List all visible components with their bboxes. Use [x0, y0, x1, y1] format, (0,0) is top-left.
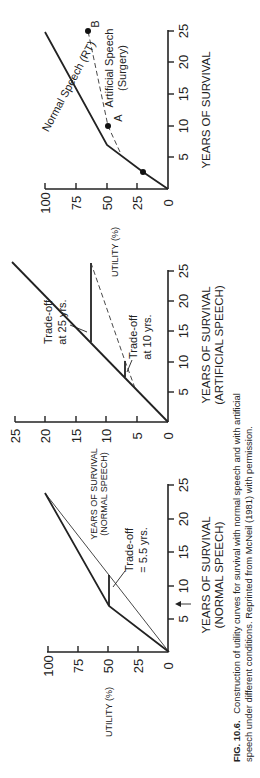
y-tick-label: 75 [69, 196, 84, 210]
arrow-up-icon [175, 601, 191, 607]
x-tick-label: 10 [176, 579, 191, 593]
data-point-b [85, 28, 91, 34]
x-tick-label: 5 [176, 615, 191, 622]
y-tick-label: 20 [38, 429, 53, 443]
tradeoff-pointer [113, 571, 125, 587]
x-tick-label: 15 [176, 324, 191, 338]
caption-line-1: Construction of utility curves for survi… [231, 393, 242, 713]
y-axis-title: YEARS OF SURVIVAL [89, 448, 99, 540]
data-point-a [105, 123, 111, 129]
y-tick-label: 0 [161, 199, 176, 206]
tradeoff-label-2: = 5.5 yrs. [137, 527, 149, 573]
y-tick-label: 100 [41, 655, 56, 677]
point-b-label: B [89, 20, 101, 27]
y-tick-label: 0 [161, 662, 176, 669]
x-tick-label: 20 [176, 55, 191, 69]
x-axis-title: YEARS OF SURVIVAL [200, 51, 212, 169]
y-axis-title: UTILITY (%) [110, 227, 120, 277]
artificial-speech-label: Artificial Speech [103, 29, 115, 108]
data-point [140, 169, 146, 175]
x-tick-label: 25 [176, 24, 191, 38]
svg-text:FIG. 10.6. Constructio: FIG. 10.6. Construction of utility curve… [231, 393, 242, 762]
x-tick-label: 5 [176, 388, 191, 395]
tradeoff-25-label: Trade-off [42, 299, 54, 344]
x-tick-label: 25 [176, 264, 191, 278]
y-tick-label: 50 [101, 659, 116, 673]
x-axis-title: YEARS OF SURVIVAL [200, 286, 212, 404]
y-tick-label: 10 [99, 429, 114, 443]
tradeoff-label: Trade-off [123, 527, 135, 572]
x-tick-label: 10 [176, 355, 191, 369]
tradeoff-10-label-2: at 10 yrs. [141, 314, 153, 359]
panel-utility-comparison: 5 10 15 20 25 0 25 50 75 100 YEARS OF SU… [38, 20, 212, 277]
normal-speech-label: Normal Speech (RT) [40, 39, 98, 134]
y-tick-label: 100 [38, 192, 53, 214]
x-tick-label: 15 [176, 87, 191, 101]
x-tick-label: 20 [176, 512, 191, 526]
y-tick-label: 25 [8, 429, 23, 443]
artificial-speech-label-2: (Surgery) [116, 45, 128, 91]
tradeoff-25-label-2: at 25 yrs. [56, 299, 68, 344]
caption-line-2: speech under different conditions. Repri… [243, 426, 254, 762]
x-axis-title: YEARS OF SURVIVAL [200, 516, 212, 634]
tradeoff-10-pointer [127, 360, 132, 372]
caption-label: FIG. 10.6. [231, 720, 242, 762]
y-tick-label: 50 [100, 196, 115, 210]
x-axis-title-2: (ARTIFICIAL SPEECH) [213, 285, 225, 405]
y-axis-title: UTILITY (%) [104, 687, 114, 737]
point-a-label: A [112, 114, 124, 122]
y-tick-label: 25 [130, 196, 145, 210]
panel-utility-tradeoff: 5 10 15 20 25 0 25 50 75 100 YEARS OF SU… [41, 478, 225, 737]
y-tick-label: 75 [71, 659, 86, 673]
x-tick-label: 20 [176, 294, 191, 308]
y-tick-label: 0 [161, 432, 176, 439]
y-tick-label: 15 [69, 429, 84, 443]
x-axis-title-2: (NORMAL SPEECH) [213, 521, 225, 628]
x-tick-label: 25 [176, 478, 191, 492]
y-tick-label: 5 [130, 432, 145, 439]
x-tick-label: 10 [176, 119, 191, 133]
x-tick-label: 5 [176, 153, 191, 160]
panel-survival-equivalence: 5 10 15 20 25 0 5 10 15 20 25 YEARS OF S… [8, 262, 225, 540]
y-tick-label: 25 [131, 659, 146, 673]
y-axis-title-2: (NORMAL SPEECH) [99, 452, 109, 536]
tradeoff-10-label: Trade-off [127, 314, 139, 359]
x-tick-label: 15 [176, 545, 191, 559]
figure-caption: FIG. 10.6. Construction of utility curve… [231, 393, 254, 762]
figure-canvas: 5 10 15 20 25 0 25 50 75 100 YEARS OF SU… [0, 0, 260, 778]
